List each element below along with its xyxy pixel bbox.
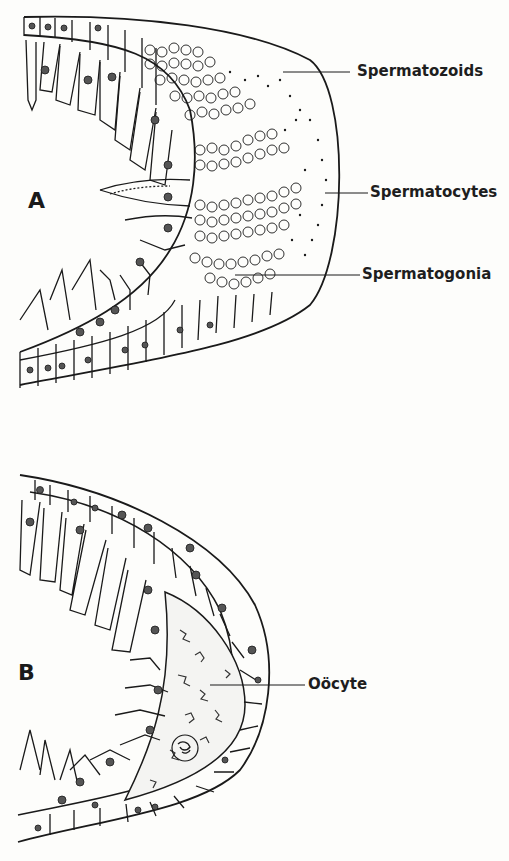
panel-a-testis-section: A Spermatozoids Spermatocytes Spermatogo…: [0, 0, 509, 430]
panel-a-letter: A: [28, 188, 45, 213]
panel-b-ovary-section: B Oöcyte: [0, 430, 509, 861]
label-oocyte: Oöcyte: [308, 675, 367, 693]
label-spermatozoids: Spermatozoids: [357, 62, 483, 80]
label-spermatocytes: Spermatocytes: [370, 183, 497, 201]
panel-b-letter: B: [18, 660, 35, 685]
ovary-section-illustration: [0, 430, 509, 861]
label-spermatogonia: Spermatogonia: [362, 265, 491, 283]
